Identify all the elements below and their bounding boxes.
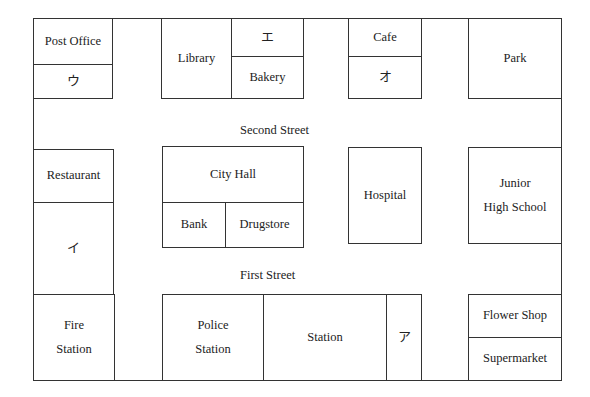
police-station-label-line1: Police <box>197 314 228 338</box>
building-u[interactable]: ウ <box>33 64 113 99</box>
building-o-label: オ <box>379 65 392 90</box>
building-a-label: ア <box>398 325 411 350</box>
fire-station[interactable]: Fire Station <box>33 294 115 381</box>
fire-station-label-line1: Fire <box>64 314 84 338</box>
city-hall[interactable]: City Hall <box>162 146 304 203</box>
cafe[interactable]: Cafe <box>348 18 422 57</box>
supermarket-label: Supermarket <box>483 347 547 371</box>
second-street-label: Second Street <box>240 123 309 138</box>
building-i-label: イ <box>67 236 80 261</box>
building-i[interactable]: イ <box>33 202 114 295</box>
building-e[interactable]: エ <box>231 18 304 57</box>
bakery[interactable]: Bakery <box>231 56 304 99</box>
police-station[interactable]: Police Station <box>162 294 264 381</box>
building-u-label: ウ <box>67 69 80 94</box>
bank-label: Bank <box>181 213 207 237</box>
flower-shop[interactable]: Flower Shop <box>468 294 562 338</box>
restaurant[interactable]: Restaurant <box>33 149 114 203</box>
hospital[interactable]: Hospital <box>348 147 422 244</box>
police-station-label-line2: Station <box>195 338 230 362</box>
building-a[interactable]: ア <box>386 294 422 381</box>
library-label: Library <box>178 47 215 71</box>
building-e-label: エ <box>261 25 274 50</box>
junior-high-label-line2: High School <box>484 196 547 220</box>
building-o[interactable]: オ <box>348 56 422 99</box>
restaurant-label: Restaurant <box>47 164 100 188</box>
flower-shop-label: Flower Shop <box>483 304 547 328</box>
junior-high-label-line1: Junior <box>499 172 530 196</box>
post-office-label: Post Office <box>45 30 101 54</box>
station[interactable]: Station <box>263 294 387 381</box>
fire-station-label-line2: Station <box>56 338 91 362</box>
supermarket[interactable]: Supermarket <box>468 337 562 381</box>
junior-high-school[interactable]: Junior High School <box>468 147 562 244</box>
park[interactable]: Park <box>468 18 562 99</box>
town-map: Post Office ウ Library エ Bakery Cafe オ Pa… <box>0 0 590 397</box>
drugstore[interactable]: Drugstore <box>225 202 304 248</box>
post-office[interactable]: Post Office <box>33 18 113 65</box>
bank[interactable]: Bank <box>162 202 226 248</box>
cafe-label: Cafe <box>373 26 397 50</box>
library[interactable]: Library <box>161 18 232 99</box>
bakery-label: Bakery <box>249 66 285 90</box>
drugstore-label: Drugstore <box>240 213 290 237</box>
park-label: Park <box>504 47 527 71</box>
station-label: Station <box>307 326 342 350</box>
hospital-label: Hospital <box>364 184 406 208</box>
first-street-label: First Street <box>240 268 295 283</box>
city-hall-label: City Hall <box>210 163 256 187</box>
